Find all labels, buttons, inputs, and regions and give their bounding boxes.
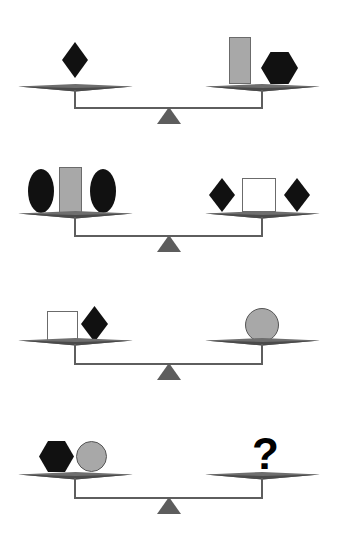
scale-2-right-item-diamond-black-1 — [209, 178, 235, 212]
scale-1-fulcrum — [157, 107, 181, 124]
scale-2-right-stem — [261, 217, 263, 237]
scale-4-fulcrum — [157, 497, 181, 514]
scale-4-right-stem — [261, 478, 263, 499]
scale-3-left-item-diamond-black — [81, 306, 108, 342]
scale-3-right-stem — [261, 344, 263, 365]
balance-scale-4: ? — [0, 410, 340, 553]
scale-2-fulcrum — [157, 235, 181, 252]
balance-scale-1 — [0, 0, 340, 140]
scale-4-left-stem — [74, 478, 76, 499]
scale-2-right-item-diamond-black-2 — [284, 178, 310, 212]
scale-4-right-item-question-mark: ? — [252, 432, 279, 476]
scale-3-right-item-circle-gray — [245, 308, 279, 342]
scale-1-right-item-hexagon-black — [261, 52, 298, 84]
scale-1-left-item-diamond-black — [62, 42, 88, 78]
balance-scale-3 — [0, 280, 340, 410]
scale-4-left-item-circle-gray — [76, 441, 107, 472]
scale-4-left-item-hexagon-black — [39, 441, 74, 472]
scale-2-left-stem — [74, 217, 76, 237]
balance-scale-2 — [0, 140, 340, 280]
scale-2-left-item-ellipse-black-2 — [90, 169, 116, 213]
balance-puzzle-canvas: ? — [0, 0, 340, 553]
scale-2-right-item-square-white — [242, 178, 276, 212]
scale-3-fulcrum — [157, 363, 181, 380]
scale-1-right-item-rectangle-gray — [229, 37, 251, 84]
scale-2-left-item-rectangle-gray — [59, 167, 82, 213]
scale-2-left-item-ellipse-black-1 — [28, 169, 54, 213]
scale-3-left-stem — [74, 344, 76, 365]
